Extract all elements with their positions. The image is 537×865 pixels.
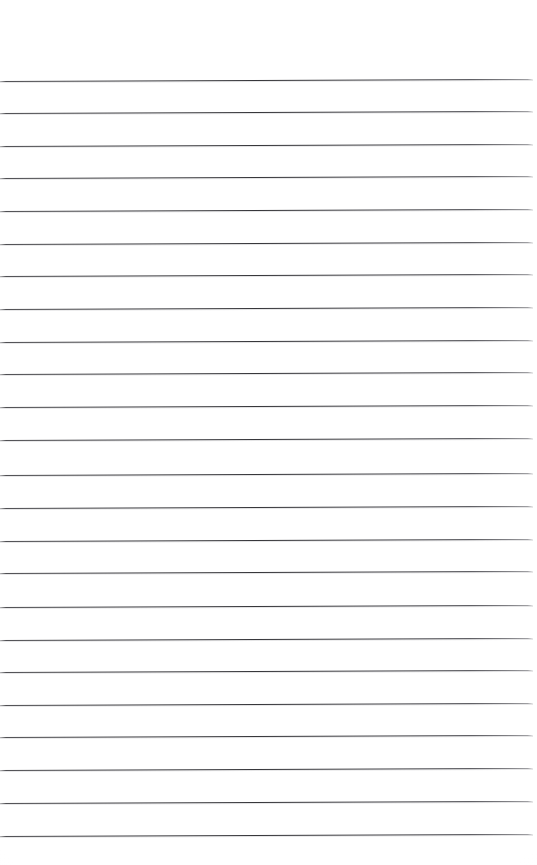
ruled-line	[0, 144, 533, 147]
ruled-line	[0, 405, 533, 408]
ruled-line	[0, 834, 533, 837]
ruled-line	[0, 638, 533, 641]
ruled-line	[0, 473, 533, 476]
ruled-line	[0, 209, 533, 212]
ruled-line	[0, 539, 533, 542]
ruled-line	[0, 605, 533, 608]
ruled-line	[0, 307, 533, 310]
ruled-line	[0, 79, 533, 82]
ruled-line	[0, 670, 533, 673]
ruled-line	[0, 703, 533, 706]
ruled-line	[0, 242, 533, 245]
ruled-line	[0, 801, 533, 804]
ruled-line	[0, 111, 533, 114]
ruled-line	[0, 176, 533, 179]
ruled-line	[0, 274, 533, 277]
lined-paper-page	[0, 0, 537, 865]
ruled-line	[0, 571, 533, 574]
ruled-line	[0, 768, 533, 771]
ruled-line	[0, 506, 533, 509]
ruled-lines-layer	[0, 0, 537, 865]
ruled-line	[0, 438, 533, 441]
ruled-line	[0, 735, 533, 738]
ruled-line	[0, 372, 533, 375]
ruled-line	[0, 340, 533, 343]
